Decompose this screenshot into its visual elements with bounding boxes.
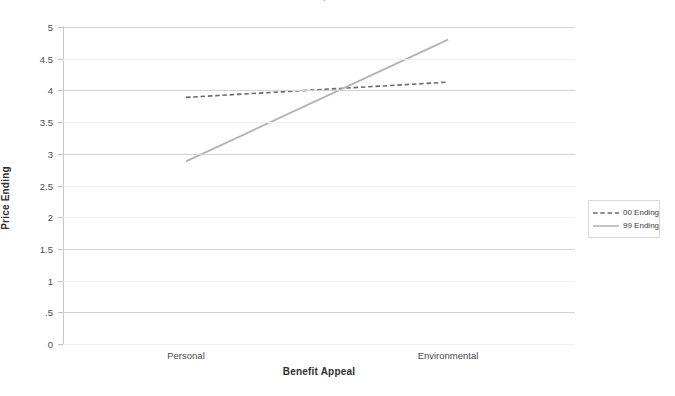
x-tick-label-environmental: Environmental	[418, 350, 479, 361]
y-tick-label: 4	[9, 85, 53, 96]
gridline-4	[63, 90, 575, 91]
gridline-3	[63, 154, 575, 155]
chart-container: Study 2 Results 5 4.5 4 3.5 3 2.5 2 1.5 …	[0, 0, 675, 396]
y-axis-title: Price Ending	[0, 134, 11, 198]
gridline-3-5	[63, 122, 575, 123]
y-tick-label: 1	[9, 275, 53, 286]
gridline-0-5	[63, 312, 575, 313]
legend-label-00-ending: 00 Ending	[623, 208, 659, 217]
legend-label-99-ending: 99 Ending	[623, 221, 659, 230]
y-tick-label: 1.5	[9, 243, 53, 254]
gridline-2	[63, 217, 575, 218]
gridline-4-5	[63, 59, 575, 60]
y-tick-label: 2.5	[9, 180, 53, 191]
y-tick-label: .5	[9, 307, 53, 318]
legend-swatch-dashed-icon	[593, 209, 619, 217]
legend-item-00-ending: 00 Ending	[593, 206, 655, 219]
gridline-2-5	[63, 186, 575, 187]
chart-legend: 00 Ending 99 Ending	[588, 200, 660, 238]
chart-title: Study 2 Results	[0, 0, 675, 1]
x-axis-title: Benefit Appeal	[63, 366, 575, 377]
legend-swatch-solid-icon	[593, 222, 619, 230]
y-tick-label: 3.5	[9, 117, 53, 128]
y-tick-label: 3	[9, 148, 53, 159]
y-tick-label: 2	[9, 212, 53, 223]
gridline-5	[63, 27, 575, 28]
gridline-1-5	[63, 249, 575, 250]
x-tick-label-personal: Personal	[167, 350, 205, 361]
y-tick-label: 5	[9, 22, 53, 33]
gridline-1	[63, 281, 575, 282]
y-axis-title-text: Price Ending	[0, 166, 11, 230]
y-tick-label: 0	[9, 339, 53, 350]
legend-item-99-ending: 99 Ending	[593, 219, 655, 232]
gridline-0	[63, 344, 575, 345]
plot-area	[63, 27, 575, 344]
y-tick-label: 4.5	[9, 53, 53, 64]
